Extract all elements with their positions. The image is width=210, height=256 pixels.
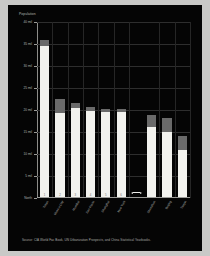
x-axis-label: Shanghai (101, 200, 111, 213)
bar-segment-increment (162, 118, 171, 132)
page-root: Population 123456 North5 mil10 mil15 mil… (0, 0, 210, 256)
bar-segment-population (101, 112, 110, 198)
bar-rank-label: 3 (71, 193, 80, 197)
vertical-gridline (114, 22, 115, 198)
y-axis-tick (34, 66, 38, 67)
bar-segment-population (40, 46, 49, 198)
source-note: Source: CIA World Fac Book, UN Urbanizat… (22, 238, 151, 242)
x-axis-label: Mumbai (71, 200, 80, 212)
bar-segment-population (71, 108, 80, 198)
chart-figure: Population 123456 North5 mil10 mil15 mil… (8, 5, 202, 251)
bar-rank-label: 1 (40, 193, 49, 197)
y-axis-tick (34, 110, 38, 111)
plot-area: 123456 North5 mil10 mil15 mil20 mil25 mi… (37, 22, 190, 198)
gap-arrow-icon (131, 192, 142, 194)
y-axis-tick-label: North (24, 196, 32, 200)
x-axis-label: Shenzhen (146, 200, 156, 214)
vertical-gridline (68, 22, 69, 198)
bar-rank-label: 2 (55, 193, 64, 197)
bar-segment-increment (178, 136, 187, 150)
bar-rank-label: 6 (117, 193, 126, 197)
vertical-gridline (159, 22, 160, 198)
y-axis-tick (34, 198, 38, 199)
bar-segment-population (55, 113, 64, 198)
x-axis-label: Mexico City (53, 200, 64, 216)
bar-rank-label: 5 (101, 193, 110, 197)
x-axis-line (37, 197, 190, 198)
vertical-gridline (52, 22, 53, 198)
x-axis-label: Tianjin (179, 200, 187, 210)
bar[interactable] (178, 136, 187, 198)
bar-segment-population (178, 150, 187, 198)
bar-segment-population (147, 127, 156, 198)
y-axis-tick-label: 30 mil (23, 64, 32, 68)
vertical-gridline (129, 22, 130, 198)
bar[interactable]: 5 (101, 109, 110, 198)
bar-segment-increment (55, 99, 64, 113)
y-axis-tick-label: 25 mil (23, 86, 32, 90)
vertical-gridline (98, 22, 99, 198)
y-axis-tick (34, 22, 38, 23)
y-axis-tick (34, 176, 38, 177)
x-axis-label: Tokyo (42, 200, 50, 209)
x-axis-label: New York (116, 200, 126, 213)
bar[interactable] (147, 115, 156, 198)
bar[interactable]: 2 (55, 99, 64, 198)
y-axis-tick (34, 132, 38, 133)
bar[interactable]: 3 (71, 103, 80, 198)
vertical-gridline (190, 22, 191, 198)
x-axis-label: Sao Paulo (85, 200, 96, 214)
bar-segment-population (117, 112, 126, 198)
vertical-gridline (175, 22, 176, 198)
y-axis-title: Population (19, 12, 36, 16)
x-axis-label: Beijing (164, 200, 172, 210)
y-axis-tick-label: 5 mil (25, 174, 32, 178)
y-axis-tick-label: 10 mil (23, 152, 32, 156)
y-axis-tick-label: 35 mil (23, 42, 32, 46)
y-axis-tick (34, 154, 38, 155)
bar[interactable]: 6 (117, 109, 126, 198)
bar-segment-population (162, 132, 171, 198)
y-axis-tick-label: 15 mil (23, 130, 32, 134)
y-axis-tick-label: 20 mil (23, 108, 32, 112)
bar-rank-label: 4 (86, 193, 95, 197)
bar[interactable]: 4 (86, 107, 95, 198)
bar-segment-increment (147, 115, 156, 127)
bar[interactable]: 1 (40, 40, 49, 198)
arrow-shaft (133, 192, 140, 193)
vertical-gridline (83, 22, 84, 198)
x-axis-labels: TokyoMexico CityMumbaiSao PauloShanghaiN… (37, 200, 190, 236)
bar-segment-population (86, 111, 95, 198)
y-axis-tick (34, 44, 38, 45)
arrow-head-right (140, 192, 142, 194)
y-axis-tick (34, 88, 38, 89)
bar[interactable] (162, 118, 171, 198)
y-axis-tick-label: 40 mil (23, 20, 32, 24)
